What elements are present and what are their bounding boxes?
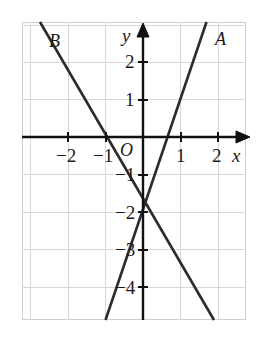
y-tick-label--4: −4 xyxy=(115,278,135,297)
origin-label: O xyxy=(120,141,133,159)
x-tick-label-1: 1 xyxy=(176,146,186,165)
line-label-b: B xyxy=(49,32,60,50)
y-tick-label--2: −2 xyxy=(115,203,135,222)
y-tick-label--1: −1 xyxy=(115,165,135,184)
y-axis-label: y xyxy=(122,26,130,45)
x-tick-label--1: −1 xyxy=(93,146,113,165)
x-tick-label-2: 2 xyxy=(212,146,222,165)
x-tick-label--2: −2 xyxy=(56,146,76,165)
x-axis-label: x xyxy=(232,146,240,165)
y-tick-label-2: 2 xyxy=(125,52,135,71)
coordinate-graph-figure: −2 −1 1 2 2 1 −1 −2 −3 −4 O x y B A xyxy=(0,0,270,341)
x-axis-arrow xyxy=(236,131,250,143)
line-label-a: A xyxy=(215,30,226,48)
y-tick-label--3: −3 xyxy=(115,240,135,259)
y-tick-label-1: 1 xyxy=(125,90,135,109)
y-axis-arrow xyxy=(137,23,149,37)
